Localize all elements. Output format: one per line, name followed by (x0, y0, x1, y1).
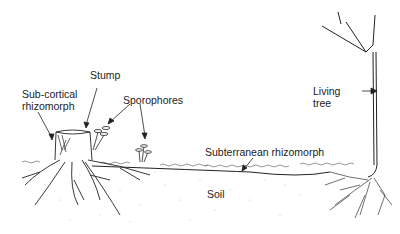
stump-roots (22, 160, 150, 215)
label-living-line2: tree (313, 97, 331, 109)
tree-roots (325, 172, 392, 218)
label-stump: Stump (90, 69, 120, 81)
label-living-line1: Living (313, 85, 340, 97)
stump-drawing (55, 130, 92, 160)
sporophores-stump (93, 127, 110, 151)
label-sporophores: Sporophores (123, 94, 183, 106)
label-subcortical-line1: Sub-cortical (22, 88, 77, 100)
sporophores-ground (136, 145, 152, 162)
armillaria-rhizomorph-diagram: Stump Sub-cortical rhizomorph Sporophore… (0, 0, 400, 234)
label-subcortical-line2: rhizomorph (22, 100, 75, 112)
soil-stipple (29, 169, 315, 222)
label-soil: Soil (207, 188, 225, 200)
subterranean-rhizomorph-line (92, 166, 330, 175)
diagram-drawing (0, 0, 400, 234)
label-subterranean-rhizomorph: Subterranean rhizomorph (205, 146, 324, 158)
